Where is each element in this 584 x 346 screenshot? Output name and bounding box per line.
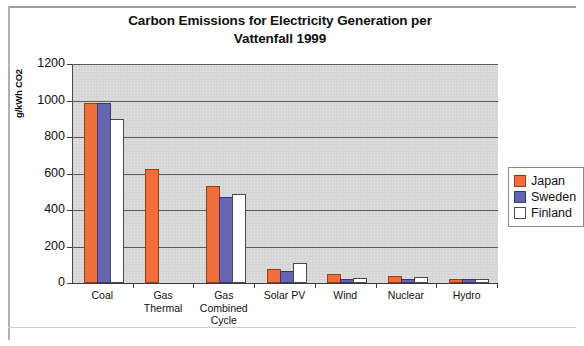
gridline	[73, 101, 498, 102]
y-axis-tick-mark	[67, 283, 72, 284]
legend: JapanSwedenFinland	[508, 167, 584, 227]
x-axis-label-line: Cycle	[187, 314, 261, 327]
gridline	[73, 210, 498, 211]
y-axis-tick-mark	[67, 174, 72, 175]
bar-japan-solar-pv	[267, 269, 281, 283]
finland-swatch	[514, 207, 526, 219]
bar-japan-wind	[327, 274, 341, 283]
bar-finland-solar-pv	[293, 263, 307, 283]
bar-sweden-solar-pv	[280, 271, 294, 283]
y-axis-tick-mark	[67, 137, 72, 138]
x-axis-tick-mark	[436, 283, 437, 288]
legend-item-label: Sweden	[531, 190, 576, 204]
bar-sweden-gas-combined-cycle	[219, 197, 233, 283]
frame-border-top	[8, 6, 576, 8]
y-axis-tick-label: 800	[17, 129, 65, 143]
gridline	[73, 64, 498, 65]
y-axis-tick-mark	[67, 247, 72, 248]
bar-finland-coal	[110, 119, 124, 283]
legend-item-japan: Japan	[514, 173, 579, 189]
sweden-swatch	[514, 191, 526, 203]
x-axis-line	[72, 283, 498, 284]
x-axis-label: Hydro	[430, 289, 504, 302]
japan-swatch	[514, 175, 526, 187]
gridline	[73, 137, 498, 138]
x-axis-tick-mark	[315, 283, 316, 288]
y-axis-tick-mark	[67, 210, 72, 211]
y-axis-tick-label: 200	[17, 239, 65, 253]
x-axis-label-line: Hydro	[430, 289, 504, 302]
chart-title: Carbon Emissions for Electricity Generat…	[60, 12, 500, 48]
legend-item-label: Japan	[531, 174, 565, 188]
frame-border-bottom	[8, 327, 576, 328]
chart-title-line-1: Carbon Emissions for Electricity Generat…	[60, 12, 500, 30]
legend-item-label: Finland	[531, 206, 572, 220]
y-axis-tick-label: 400	[17, 202, 65, 216]
bar-japan-coal	[84, 103, 98, 283]
gridline	[73, 174, 498, 175]
x-axis-tick-mark	[133, 283, 134, 288]
y-axis-tick-mark	[67, 64, 72, 65]
bar-japan-gas-thermal	[145, 169, 159, 283]
x-axis-tick-mark	[254, 283, 255, 288]
bar-finland-gas-combined-cycle	[232, 194, 246, 283]
y-axis-tick-label: 1000	[17, 93, 65, 107]
chart-title-line-2: Vattenfall 1999	[60, 30, 500, 48]
bar-sweden-coal	[97, 103, 111, 283]
x-axis-tick-mark	[497, 283, 498, 288]
x-axis-tick-mark	[376, 283, 377, 288]
y-axis-tick-label: 0	[17, 275, 65, 289]
y-axis-tick-label: 1200	[17, 56, 65, 70]
frame-border-left	[8, 6, 10, 340]
y-axis-tick-label: 600	[17, 166, 65, 180]
x-axis-label-line: Combined	[187, 302, 261, 315]
legend-item-sweden: Sweden	[514, 189, 579, 205]
y-axis-tick-mark	[67, 101, 72, 102]
legend-item-finland: Finland	[514, 205, 579, 221]
plot-area	[72, 64, 498, 283]
x-axis-tick-mark	[193, 283, 194, 288]
gridline	[73, 247, 498, 248]
bar-japan-gas-combined-cycle	[206, 186, 220, 283]
